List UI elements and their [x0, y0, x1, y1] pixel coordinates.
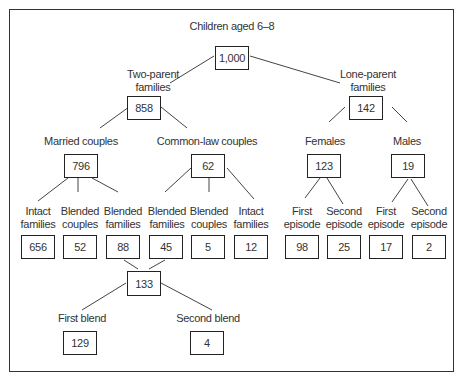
outer-frame-border	[9, 9, 454, 124]
leaf-label: Secondepisode	[326, 205, 362, 231]
node-blended-total-box: 133	[127, 271, 161, 296]
leaf-label: Intactfamilies	[21, 205, 56, 231]
leaf-label: Blendedcouples	[61, 205, 99, 231]
label-line: Blended	[148, 205, 186, 217]
label-line: episode	[411, 218, 447, 230]
leaf-label: Blendedfamilies	[104, 205, 142, 231]
leaf-box: 52	[63, 235, 97, 259]
leaf-box: 45	[149, 235, 183, 259]
label-line: episode	[326, 218, 362, 230]
label-line: Blended	[61, 205, 99, 217]
label-line: families	[21, 218, 56, 230]
leaf-box: 88	[106, 235, 140, 259]
node-common-law-box: 62	[191, 154, 225, 178]
label-males: Males	[393, 135, 421, 148]
label-second-blend: Second blend	[176, 312, 240, 325]
label-line: episode	[368, 218, 404, 230]
label-line: First	[376, 205, 396, 217]
leaf-box: 12	[234, 235, 268, 259]
leaf-box: 25	[327, 235, 361, 259]
label-line: First	[292, 205, 312, 217]
label-line: couples	[62, 218, 98, 230]
label-line: families	[106, 218, 141, 230]
label-common-law: Common-law couples	[157, 135, 257, 148]
node-married-box: 796	[64, 154, 98, 178]
leaf-box: 17	[369, 235, 403, 259]
leaf-label: Intactfamilies	[234, 205, 269, 231]
node-females-box: 123	[307, 154, 341, 178]
label-line: Intact	[25, 205, 50, 217]
leaf-label: Secondepisode	[411, 205, 447, 231]
label-married: Married couples	[44, 135, 118, 148]
label-females: Females	[305, 135, 345, 148]
label-line: Intact	[238, 205, 263, 217]
node-first-blend-box: 129	[63, 331, 97, 355]
node-second-blend-box: 4	[190, 331, 224, 355]
leaf-box: 5	[191, 235, 225, 259]
leaf-label: Firstepisode	[368, 205, 404, 231]
leaf-label: Blendedfamilies	[148, 205, 186, 231]
label-line: Blended	[190, 205, 228, 217]
leaf-label: Firstepisode	[284, 205, 320, 231]
node-males-box: 19	[391, 154, 425, 178]
label-first-blend: First blend	[58, 312, 106, 325]
label-line: Second	[326, 205, 362, 217]
label-line: Blended	[104, 205, 142, 217]
label-line: couples	[191, 218, 227, 230]
label-line: Second	[411, 205, 447, 217]
label-line: families	[234, 218, 269, 230]
label-line: families	[150, 218, 185, 230]
leaf-box: 656	[21, 235, 55, 259]
label-line: episode	[284, 218, 320, 230]
leaf-box: 2	[412, 235, 446, 259]
leaf-label: Blendedcouples	[190, 205, 228, 231]
leaf-box: 98	[285, 235, 319, 259]
